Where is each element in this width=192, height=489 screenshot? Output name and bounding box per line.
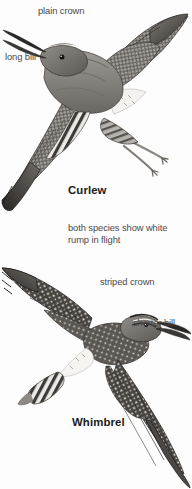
annotation-shorter-bill: shorter bill	[133, 317, 175, 329]
whimbrel-figure	[2, 268, 191, 488]
curlew-figure	[2, 14, 188, 211]
annotation-plain-crown: plain crown	[38, 5, 84, 17]
annotation-rump-note-line1: both species show white	[68, 222, 192, 234]
species-name-curlew: Curlew	[68, 184, 107, 196]
illustration-plate: plain crown long bill Curlew both specie…	[0, 0, 192, 489]
annotation-long-bill: long bill	[5, 51, 36, 63]
annotation-striped-crown: striped crown	[100, 276, 154, 288]
species-name-whimbrel: Whimbrel	[72, 416, 125, 428]
annotation-rump-note-line2: rump in flight	[68, 234, 192, 246]
